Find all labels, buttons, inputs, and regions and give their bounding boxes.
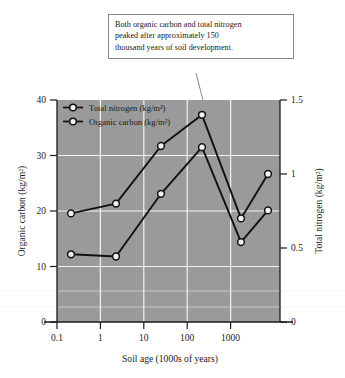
data-point [158,190,165,197]
annotation-line-2: peaked after approximately 150 [115,30,287,41]
ytick-label-40: 40 [37,95,47,105]
y2tick-label-1p5: 1.5 [291,95,303,105]
annotation-line-3: thousand years of soil development. [115,42,287,53]
y2-axis-title: Total nitrogen (kg/m²) [313,168,325,253]
y-axis-title: Organic carbon (kg/m²) [16,166,28,257]
y2tick-label-1: 1 [291,169,296,179]
data-point [265,171,272,178]
legend-label-total-nitrogen: Total nitrogen (kg/m²) [89,103,166,113]
data-point [68,210,75,217]
y2tick-label-0: 0 [291,317,296,327]
legend-label-organic-carbon: Organic carbon (kg/m²) [89,117,170,127]
annotation-line-1: Both organic carbon and total nitrogen [115,19,287,30]
ytick-label-0: 0 [41,317,46,327]
data-point [113,200,120,207]
ytick-label-30: 30 [37,151,47,161]
ytick-label-10: 10 [37,262,47,272]
data-point [238,215,245,222]
left-axis-ticks [50,100,57,322]
data-point [199,144,206,151]
annotation-callout: Both organic carbon and total nitrogen p… [108,14,294,59]
ytick-label-20: 20 [37,206,47,216]
data-point [68,251,75,258]
data-point [238,239,245,246]
legend-marker [70,104,77,111]
data-point [265,207,272,214]
xtick-label-1000: 1000 [221,333,240,343]
xtick-label-100: 100 [180,333,195,343]
data-point [199,111,206,118]
x-axis-title: Soil age (1000s of years) [122,353,218,365]
xtick-label-0p1: 0.1 [51,333,63,343]
legend-marker [70,118,77,125]
xtick-label-1: 1 [98,333,103,343]
data-point [158,143,165,150]
y2tick-label-0p5: 0.5 [291,243,303,253]
data-point [113,253,120,260]
figure-container: Both organic carbon and total nitrogen p… [0,0,345,378]
bottom-axis-ticks [57,322,231,329]
right-axis-ticks [280,100,287,322]
xtick-label-10: 10 [139,333,149,343]
